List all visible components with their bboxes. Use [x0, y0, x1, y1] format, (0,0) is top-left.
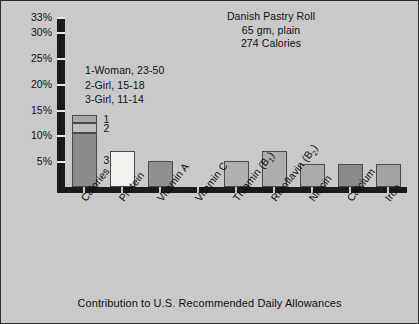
y-tick-15 — [57, 110, 65, 112]
bar-segment-1 — [72, 115, 97, 123]
y-tick-33 — [57, 17, 65, 19]
y-tick-label-25: 25% — [31, 52, 52, 64]
bar-segment-label-1: 1 — [104, 113, 110, 125]
y-tick-10 — [57, 135, 65, 137]
y-tick-30 — [57, 32, 65, 34]
y-tick-label-15: 15% — [31, 104, 52, 116]
y-tick-label-30: 30% — [31, 26, 52, 38]
y-tick-label-33: 33% — [31, 11, 52, 23]
chart-caption: Contribution to U.S. Recommended Daily A… — [1, 297, 418, 309]
bar-segment-2 — [72, 123, 97, 133]
y-axis: 5%10%15%20%25%30%33% — [57, 17, 65, 193]
bar-segment-label-3: 3 — [104, 154, 110, 166]
plot-area: 5%10%15%20%25%30%33% 321 — [57, 17, 407, 193]
y-tick-label-20: 20% — [31, 78, 52, 90]
y-tick-20 — [57, 84, 65, 86]
y-tick-label-10: 10% — [31, 129, 52, 141]
y-tick-label-5: 5% — [37, 155, 52, 167]
y-tick-5 — [57, 161, 65, 163]
y-tick-25 — [57, 58, 65, 60]
chart-figure: Danish Pastry Roll 65 gm, plain 274 Calo… — [0, 0, 419, 324]
bar-group: 321 — [65, 17, 407, 187]
